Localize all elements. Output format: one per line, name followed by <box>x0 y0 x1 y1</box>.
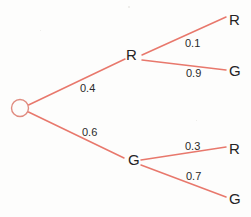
branch-root-to-g <box>29 112 125 158</box>
probability-label-g-to-g: 0.7 <box>186 171 201 182</box>
branch-root-to-r <box>29 59 126 105</box>
probability-label-root-to-r: 0.4 <box>80 83 95 94</box>
probability-label-root-to-g: 0.6 <box>82 127 97 138</box>
branch-r-to-r <box>142 17 226 55</box>
node-label-stage2-g-g: G <box>229 191 241 206</box>
branch-g-to-r <box>141 147 226 160</box>
node-label-stage2-g-r: R <box>229 141 240 156</box>
probability-tree-diagram: R G 0.4 0.6 R G R G 0.1 0.9 0.3 0.7 <box>0 0 251 217</box>
root-node-circle <box>12 100 29 117</box>
node-label-stage1-r: R <box>126 47 137 62</box>
branch-g-to-g <box>141 165 226 197</box>
probability-label-g-to-r: 0.3 <box>185 141 200 152</box>
probability-label-r-to-r: 0.1 <box>185 38 200 49</box>
node-label-stage1-g: G <box>128 152 140 167</box>
probability-label-r-to-g: 0.9 <box>186 68 201 79</box>
tree-branches-svg <box>0 0 251 217</box>
branch-r-to-g <box>142 60 226 70</box>
node-label-stage2-r-r: R <box>229 12 240 27</box>
node-label-stage2-r-g: G <box>229 63 241 78</box>
